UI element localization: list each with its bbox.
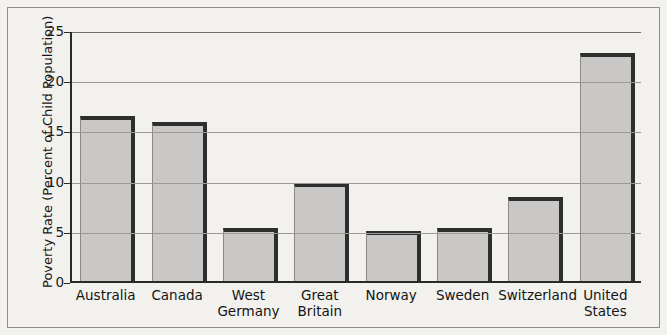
x-tick-label-line: Norway: [356, 288, 427, 304]
y-tick-label-5: 5: [24, 226, 64, 240]
y-tick-label-10: 10: [24, 176, 64, 190]
y-axis-tick-labels: 0510152025: [18, 32, 64, 283]
x-tick-label-line: Great: [284, 288, 355, 304]
x-tick-label-australia: Australia: [70, 288, 141, 304]
bar-united-states: [580, 53, 635, 281]
x-tick-label-line: West: [213, 288, 284, 304]
x-tick-label-canada: Canada: [141, 288, 212, 304]
bar-norway: [366, 231, 421, 281]
bar-great-britain: [294, 183, 349, 281]
gridline-10: [72, 183, 641, 184]
gridline-15: [72, 132, 641, 133]
bar-west-germany: [223, 228, 278, 281]
bar-switzerland: [508, 197, 563, 281]
bars-layer: [72, 32, 641, 281]
x-tick-label-great-britain: GreatBritain: [284, 288, 355, 319]
x-tick-label-line: Canada: [141, 288, 212, 304]
chart-figure: Poverty Rate (Percent of Child Populatio…: [0, 0, 667, 335]
gridline-20: [72, 82, 641, 83]
bar-sweden: [437, 228, 492, 281]
y-tick-label-15: 15: [24, 126, 64, 140]
bar-canada: [152, 122, 207, 281]
gridline-25: [72, 32, 641, 33]
x-axis-tick-labels: AustraliaCanadaWestGermanyGreatBritainNo…: [70, 288, 641, 332]
y-tick-label-0: 0: [24, 276, 64, 290]
bar-australia: [80, 116, 135, 281]
x-tick-label-norway: Norway: [356, 288, 427, 304]
x-tick-label-line: States: [570, 304, 641, 320]
x-tick-label-line: Australia: [70, 288, 141, 304]
x-tick-label-switzerland: Switzerland: [498, 288, 569, 304]
x-tick-label-sweden: Sweden: [427, 288, 498, 304]
x-tick-label-line: Germany: [213, 304, 284, 320]
plot-area: [70, 32, 641, 283]
x-tick-label-line: Britain: [284, 304, 355, 320]
y-tickmark-0: [64, 283, 70, 284]
y-tick-label-20: 20: [24, 75, 64, 89]
y-tick-label-25: 25: [24, 25, 64, 39]
x-tick-label-line: Sweden: [427, 288, 498, 304]
x-tick-label-line: United: [570, 288, 641, 304]
x-tick-label-west-germany: WestGermany: [213, 288, 284, 319]
gridline-5: [72, 233, 641, 234]
x-tick-label-line: Switzerland: [498, 288, 569, 304]
x-tick-label-united-states: UnitedStates: [570, 288, 641, 319]
